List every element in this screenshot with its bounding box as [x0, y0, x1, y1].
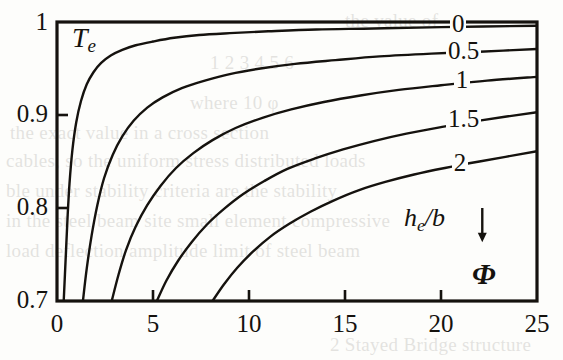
- curve-label-2: 2: [452, 149, 469, 177]
- y-axis-symbol-base: T: [72, 22, 88, 53]
- curve-label-1-5: 1.5: [446, 105, 481, 133]
- curve-label-0: 0: [450, 10, 467, 38]
- ytick-label-1: 1: [0, 8, 48, 36]
- curve-label-0-5: 0.5: [446, 37, 481, 65]
- y-axis-symbol-subscript: e: [88, 35, 96, 56]
- family-label-tail: /b: [425, 203, 445, 232]
- x-axis-symbol: Φ: [472, 257, 496, 291]
- xtick-label-15: 15: [325, 310, 365, 338]
- xtick-label-0: 0: [37, 310, 77, 338]
- y-axis-symbol: Te: [72, 22, 96, 57]
- ytick-label-0-9: 0.9: [0, 100, 48, 128]
- xtick-label-20: 20: [421, 310, 461, 338]
- family-direction-arrow: [478, 208, 487, 242]
- ytick-label-0-8: 0.8: [0, 193, 48, 221]
- curve-label-1: 1: [454, 66, 471, 94]
- family-label-subscript: e: [417, 215, 425, 235]
- figure-page: the value of 1 2 3 4 5 6 where 10 φ the …: [0, 0, 563, 360]
- xtick-label-5: 5: [133, 310, 173, 338]
- tick-group: [57, 115, 441, 301]
- xtick-label-10: 10: [229, 310, 269, 338]
- family-label: he/b: [404, 203, 445, 236]
- xtick-label-25: 25: [517, 310, 557, 338]
- family-label-base: h: [404, 203, 417, 232]
